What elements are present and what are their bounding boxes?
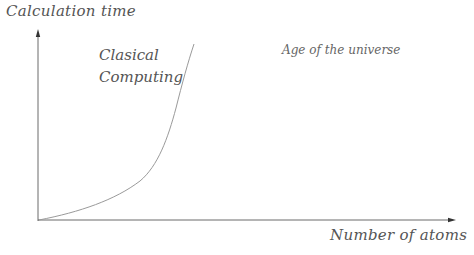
curve-label-line2: Computing xyxy=(99,66,183,88)
y-axis-arrowhead-icon xyxy=(36,29,40,37)
x-axis-arrowhead-icon xyxy=(448,218,456,222)
age-of-universe-annotation: Age of the universe xyxy=(282,43,400,57)
curve-label: Clasical Computing xyxy=(99,44,183,88)
diagram-canvas xyxy=(0,0,474,255)
x-axis-label: Number of atoms xyxy=(330,226,467,244)
y-axis-label: Calculation time xyxy=(6,2,136,20)
curve-label-line1: Clasical xyxy=(99,44,183,66)
